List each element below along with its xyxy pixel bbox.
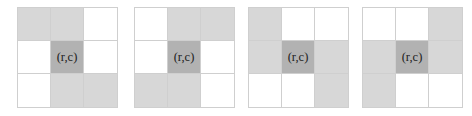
grid-4-cell-r2c1 xyxy=(363,41,396,74)
grid-3-cell-r3c2 xyxy=(282,74,315,107)
grid-1-cell-r1c2 xyxy=(51,8,84,41)
grid-3-cell-r1c3 xyxy=(315,8,348,41)
grid-4-cell-r3c3 xyxy=(429,74,462,107)
grid-2: (r,c) xyxy=(134,7,235,108)
neighborhood-pattern-figure: (r,c)(r,c)(r,c)(r,c) xyxy=(0,0,472,116)
grid-4-cell-r3c1 xyxy=(363,74,396,107)
grid-1-cell-r2c1 xyxy=(18,41,51,74)
grid-3-cell-r1c2 xyxy=(282,8,315,41)
grid-4-cell-r1c3 xyxy=(429,8,462,41)
grid-1-cell-r3c1 xyxy=(18,74,51,107)
grid-2-cell-r2c1 xyxy=(135,41,168,74)
grid-3-cell-r3c1 xyxy=(249,74,282,107)
grid-3-cell-r3c3 xyxy=(315,74,348,107)
grid-2-cell-r1c3 xyxy=(201,8,234,41)
grid-3-cell-r2c3 xyxy=(315,41,348,74)
grid-3-cell-r1c1 xyxy=(249,8,282,41)
grid-1-cell-r1c3 xyxy=(84,8,117,41)
grid-3: (r,c) xyxy=(248,7,349,108)
grid-2-cell-r1c2 xyxy=(168,8,201,41)
grid-2-cell-r3c3 xyxy=(201,74,234,107)
grid-2-cell-r3c2 xyxy=(168,74,201,107)
grid-4-cell-r3c2 xyxy=(396,74,429,107)
grid-3-cell-r2c2: (r,c) xyxy=(282,41,315,74)
grid-4: (r,c) xyxy=(362,7,463,108)
grid-1-cell-r2c3 xyxy=(84,41,117,74)
grid-3-center-cell-label: (r,c) xyxy=(288,51,309,64)
grid-2-cell-r2c3 xyxy=(201,41,234,74)
grid-1-cell-r3c3 xyxy=(84,74,117,107)
grid-1: (r,c) xyxy=(17,7,118,108)
grid-1-cell-r1c1 xyxy=(18,8,51,41)
grid-4-cell-r1c1 xyxy=(363,8,396,41)
grid-4-center-cell-label: (r,c) xyxy=(402,51,423,64)
grid-4-cell-r2c3 xyxy=(429,41,462,74)
grid-3-cell-r2c1 xyxy=(249,41,282,74)
grid-1-cell-r2c2: (r,c) xyxy=(51,41,84,74)
grid-2-cell-r3c1 xyxy=(135,74,168,107)
grid-2-cell-r2c2: (r,c) xyxy=(168,41,201,74)
grid-4-cell-r2c2: (r,c) xyxy=(396,41,429,74)
grid-4-cell-r1c2 xyxy=(396,8,429,41)
grid-2-center-cell-label: (r,c) xyxy=(174,51,195,64)
grid-1-center-cell-label: (r,c) xyxy=(57,51,78,64)
grid-2-cell-r1c1 xyxy=(135,8,168,41)
grid-1-cell-r3c2 xyxy=(51,74,84,107)
